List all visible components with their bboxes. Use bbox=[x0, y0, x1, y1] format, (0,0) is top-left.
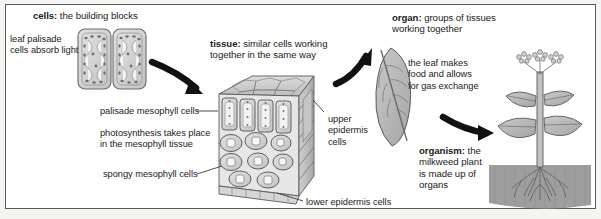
leaf-function-note: the leaf makes food and allows for gas e… bbox=[408, 58, 479, 92]
upper-epidermis-label: upper epidermis cells bbox=[328, 114, 368, 148]
tissue-heading: tissue: similar cells working together i… bbox=[210, 38, 327, 61]
tissue-term: tissue: bbox=[210, 38, 241, 49]
cells-heading-rest: the building blocks bbox=[57, 10, 138, 21]
cells-term: cells: bbox=[33, 10, 57, 21]
cells-heading: cells: the building blocks bbox=[33, 10, 138, 21]
diagram-frame bbox=[5, 4, 596, 209]
cells-note: leaf palisade cells absorb light bbox=[10, 34, 78, 57]
organ-heading: organ: groups of tissues working togethe… bbox=[392, 12, 496, 35]
spongy-mesophyll-label: spongy mesophyll cells bbox=[103, 169, 198, 180]
organism-term: organism: bbox=[419, 145, 465, 156]
biology-levels-of-organisation-diagram: cells: the building blocks leaf palisade… bbox=[0, 0, 601, 219]
organism-heading: organism: the milkweed plant is made up … bbox=[419, 145, 482, 191]
palisade-mesophyll-label: palisade mesophyll cells bbox=[100, 106, 199, 117]
lower-epidermis-label: lower epidermis cells bbox=[306, 197, 391, 208]
organ-term: organ: bbox=[392, 12, 422, 23]
photosynthesis-label: photosynthesis takes place in the mesoph… bbox=[100, 128, 210, 151]
